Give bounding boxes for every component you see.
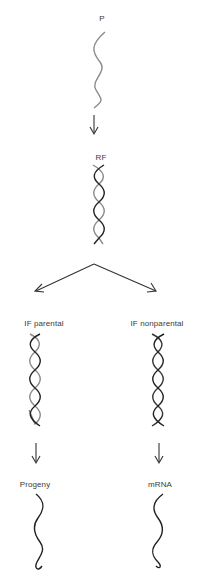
branch-arrow-left-icon <box>35 264 94 292</box>
if-nonparental-double-helix-icon <box>152 334 164 426</box>
branch-arrow-right-icon <box>94 264 156 292</box>
flow-diagram <box>0 0 202 582</box>
if-parental-double-helix-icon <box>29 334 40 426</box>
rf-double-helix-icon <box>93 165 104 244</box>
arrow-down-icon <box>155 443 163 463</box>
mrna-single-strand-icon <box>153 494 163 568</box>
arrow-down-icon <box>32 443 40 463</box>
progeny-single-strand-icon <box>34 494 43 569</box>
p-single-strand-icon <box>94 32 105 108</box>
arrow-down-icon <box>90 115 98 134</box>
